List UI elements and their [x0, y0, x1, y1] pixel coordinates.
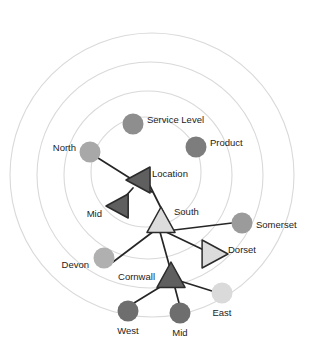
node-label-south: South [174, 206, 199, 217]
node-devon[interactable] [94, 248, 115, 269]
node-label-service-level: Service Level [147, 114, 204, 125]
radial-network-diagram: Service LevelProductNorthLocationMidSout… [0, 0, 316, 352]
node-label-mid-lower: Mid [172, 327, 187, 338]
node-west[interactable] [118, 301, 139, 322]
node-mid-lower[interactable] [170, 303, 191, 324]
node-somerset[interactable] [232, 213, 253, 234]
edge-south-to-cornwall [160, 232, 170, 268]
node-label-cornwall: Cornwall [118, 271, 155, 282]
node-label-location: Location [152, 168, 188, 179]
node-north[interactable] [80, 142, 101, 163]
node-label-west: West [117, 325, 139, 336]
node-east[interactable] [212, 283, 233, 304]
edge-south-to-somerset [166, 223, 232, 231]
node-location[interactable] [126, 167, 150, 193]
node-label-product: Product [210, 137, 243, 148]
node-service-level[interactable] [123, 114, 144, 135]
diagram-canvas: Service LevelProductNorthLocationMidSout… [0, 0, 316, 352]
node-label-mid-upper: Mid [87, 208, 102, 219]
node-label-east: East [212, 307, 231, 318]
node-label-dorset: Dorset [228, 244, 256, 255]
node-mid-upper[interactable] [106, 194, 128, 218]
node-label-somerset: Somerset [256, 219, 297, 230]
node-cornwall[interactable] [157, 262, 185, 287]
node-label-devon: Devon [62, 259, 89, 270]
node-product[interactable] [186, 137, 207, 158]
node-south[interactable] [147, 207, 175, 232]
node-dorset[interactable] [202, 240, 228, 268]
node-label-north: North [53, 142, 76, 153]
